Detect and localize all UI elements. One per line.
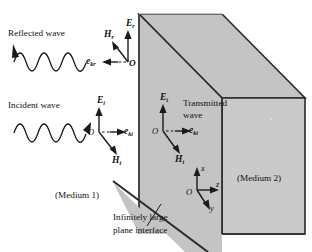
transmitted-origin-label: O: [152, 127, 158, 137]
incident-E-vector-head: [95, 107, 102, 116]
axis-origin-label: O: [186, 188, 192, 198]
transmitted-k-label: ekt: [189, 125, 198, 136]
transmitted-wave-label-line1: Transmitted: [183, 98, 227, 108]
transmitted-E-label: Et: [160, 92, 168, 103]
axis-z-label: z: [216, 180, 219, 189]
interface-label-line1: Infinitely large: [113, 212, 168, 222]
reflected-E-label: Er: [126, 18, 135, 29]
face-speck: [270, 118, 272, 120]
medium1-label: (Medium 1): [55, 190, 99, 200]
reflected-wave-arrowhead: [12, 44, 19, 58]
incident-wave-sinusoid: [14, 124, 86, 142]
reflected-k-label: ekr: [86, 56, 96, 67]
reflected-k-vector-head: [102, 59, 111, 66]
incident-H-subscript: i: [119, 159, 121, 166]
reflected-E-vector-head: [124, 30, 131, 39]
physics-diagram-wave-interface: Reflected wave Incident wave Transmitted…: [0, 0, 312, 252]
incident-H-label: Hi: [112, 155, 121, 166]
reflected-H-label: Hr: [104, 29, 114, 40]
medium2-front-face: [222, 98, 305, 234]
transmitted-wave-label-line2: wave: [183, 110, 202, 120]
incident-origin-label: O: [88, 128, 94, 138]
axis-x-label: x: [201, 164, 205, 173]
interface-label-line2: plane interface: [113, 225, 167, 235]
reflected-E-subscript: r: [132, 22, 134, 29]
transmitted-H-label: Ht: [175, 154, 184, 165]
incident-wave-label: Incident wave: [8, 100, 60, 110]
incident-k-subscript: ki: [128, 130, 133, 137]
transmitted-k-subscript: kt: [193, 129, 198, 136]
reflected-H-subscript: r: [111, 33, 113, 40]
transmitted-H-subscript: t: [182, 158, 184, 165]
incident-E-subscript: i: [103, 99, 105, 106]
reflected-origin-label: O: [129, 58, 136, 68]
medium2-label: (Medium 2): [237, 173, 281, 183]
incident-k-label: eki: [124, 126, 133, 137]
incident-E-label: Ei: [97, 95, 105, 106]
reflected-wave-label: Reflected wave: [8, 28, 65, 38]
incident-H-vector-shaft: [99, 132, 113, 150]
reflected-k-subscript: kr: [90, 60, 96, 67]
reflected-wave-sinusoid: [14, 53, 86, 71]
axis-y-label: y: [210, 204, 214, 213]
transmitted-E-subscript: t: [166, 96, 168, 103]
